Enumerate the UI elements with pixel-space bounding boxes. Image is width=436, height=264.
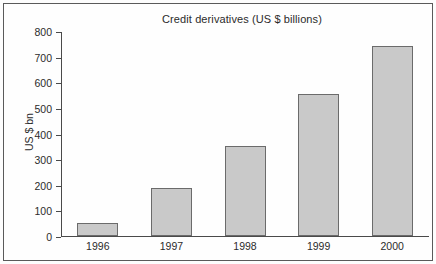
y-tick-label: 200: [34, 180, 52, 192]
y-tick-label: 500: [34, 103, 52, 115]
figure-container: Credit derivatives (US $ billions) US $ …: [0, 0, 436, 264]
y-tick-mark: [56, 83, 61, 84]
figure-frame: Credit derivatives (US $ billions) US $ …: [3, 3, 433, 261]
x-tick-label-1999: 1999: [289, 240, 349, 252]
y-tick-label: 700: [34, 52, 52, 64]
y-tick-label: 400: [34, 129, 52, 141]
y-tick-label: 100: [34, 205, 52, 217]
y-tick-label: 800: [34, 26, 52, 38]
plot-area: 8007006005004003002001000: [61, 32, 429, 237]
chart-title: Credit derivatives (US $ billions): [62, 13, 422, 25]
bar-1999[interactable]: [298, 94, 339, 236]
y-axis-line: [61, 32, 62, 237]
y-tick-label: 0: [46, 231, 52, 243]
bar-2000[interactable]: [372, 46, 413, 236]
y-tick-mark: [56, 211, 61, 212]
bar-1996[interactable]: [77, 223, 118, 236]
x-tick-label-2000: 2000: [362, 240, 422, 252]
x-axis-line: [61, 236, 429, 237]
y-tick-mark: [56, 109, 61, 110]
y-tick-mark: [56, 237, 61, 238]
bar-1998[interactable]: [225, 146, 266, 236]
bar-1997[interactable]: [151, 188, 192, 236]
y-tick-mark: [56, 135, 61, 136]
y-tick-mark: [56, 186, 61, 187]
y-tick-label: 600: [34, 77, 52, 89]
y-tick-label: 300: [34, 154, 52, 166]
x-tick-label-1996: 1996: [68, 240, 128, 252]
y-tick-mark: [56, 160, 61, 161]
y-axis-title: US $ bn: [23, 113, 35, 151]
x-tick-label-1998: 1998: [215, 240, 275, 252]
y-tick-mark: [56, 58, 61, 59]
y-tick-mark: [56, 32, 61, 33]
x-tick-label-1997: 1997: [141, 240, 201, 252]
